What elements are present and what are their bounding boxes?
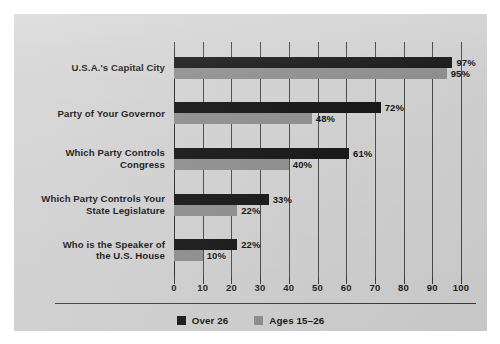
category-label-1: Party of Your Governor: [58, 108, 165, 120]
figure-panel: 0102030405060708090100U.S.A.'s Capital C…: [14, 14, 487, 331]
category-label-3: Which Party Controls YourState Legislatu…: [41, 193, 165, 216]
legend-label-over-26: Over 26: [192, 315, 229, 326]
tick-20: [231, 42, 232, 49]
category-label-2: Which Party ControlsCongress: [65, 147, 165, 170]
x-tick-label-50: 50: [312, 282, 323, 293]
gridline-90: [432, 49, 433, 277]
x-tick-label-70: 70: [369, 282, 380, 293]
bar-value-ages-15-26-0: 95%: [451, 68, 470, 79]
bar-ages-15-26-4[interactable]: [174, 250, 203, 261]
bar-over-26-3[interactable]: [174, 194, 269, 205]
tick-10: [203, 42, 204, 49]
gridline-40: [289, 49, 290, 277]
tick-50: [318, 42, 319, 49]
gridline-100: [461, 49, 462, 277]
category-label-line: the U.S. House: [63, 250, 165, 262]
x-tick-label-60: 60: [341, 282, 352, 293]
bar-ages-15-26-3[interactable]: [174, 205, 237, 216]
tick-100: [461, 42, 462, 49]
x-tick-label-80: 80: [398, 282, 409, 293]
bar-value-over-26-4: 22%: [241, 239, 260, 250]
bar-ages-15-26-0[interactable]: [174, 68, 447, 79]
gridline-60: [346, 49, 347, 277]
bar-over-26-4[interactable]: [174, 239, 237, 250]
chart-legend: Over 26 Ages 15–26: [14, 315, 487, 326]
bar-value-over-26-3: 33%: [273, 194, 292, 205]
tick-80: [404, 42, 405, 49]
x-tick-label-100: 100: [453, 282, 469, 293]
category-label-4: Who is the Speaker ofthe U.S. House: [63, 239, 165, 262]
bar-value-ages-15-26-1: 48%: [316, 113, 335, 124]
bar-value-ages-15-26-3: 22%: [241, 205, 260, 216]
bar-value-over-26-0: 97%: [456, 57, 475, 68]
bar-ages-15-26-1[interactable]: [174, 113, 312, 124]
legend-swatch-icon-over-26: [177, 316, 186, 325]
category-label-0: U.S.A.'s Capital City: [72, 62, 165, 74]
category-label-line: Congress: [65, 159, 165, 171]
bar-over-26-0[interactable]: [174, 57, 452, 68]
bar-over-26-1[interactable]: [174, 102, 381, 113]
gridline-70: [375, 49, 376, 277]
tick-90: [432, 42, 433, 49]
tick-40: [289, 42, 290, 49]
legend-item-over-26[interactable]: Over 26: [177, 315, 229, 326]
tick-60: [346, 42, 347, 49]
bar-ages-15-26-2[interactable]: [174, 159, 289, 170]
category-label-line: Which Party Controls: [65, 147, 165, 159]
bar-over-26-2[interactable]: [174, 148, 349, 159]
x-tick-label-90: 90: [427, 282, 438, 293]
tick-0: [174, 42, 175, 49]
bar-value-over-26-2: 61%: [353, 148, 372, 159]
x-tick-label-40: 40: [283, 282, 294, 293]
legend-label-ages-15-26: Ages 15–26: [269, 315, 324, 326]
category-label-line: Party of Your Governor: [58, 108, 165, 120]
bar-value-over-26-1: 72%: [385, 102, 404, 113]
x-tick-label-20: 20: [226, 282, 237, 293]
x-tick-label-10: 10: [197, 282, 208, 293]
category-label-line: Who is the Speaker of: [63, 239, 165, 251]
gridline-50: [318, 49, 319, 277]
legend-divider: [55, 303, 476, 304]
plot-area: 0102030405060708090100U.S.A.'s Capital C…: [174, 49, 461, 277]
x-tick-label-0: 0: [171, 282, 176, 293]
legend-swatch-icon-ages-15-26: [254, 316, 263, 325]
tick-70: [375, 42, 376, 49]
legend-item-ages-15-26[interactable]: Ages 15–26: [254, 315, 324, 326]
category-label-line: U.S.A.'s Capital City: [72, 62, 165, 74]
gridline-80: [404, 49, 405, 277]
category-label-line: Which Party Controls Your: [41, 193, 165, 205]
x-tick-label-30: 30: [255, 282, 266, 293]
tick-30: [260, 42, 261, 49]
chart-screenshot: 0102030405060708090100U.S.A.'s Capital C…: [0, 0, 500, 344]
bar-value-ages-15-26-2: 40%: [293, 159, 312, 170]
bar-value-ages-15-26-4: 10%: [207, 250, 226, 261]
category-label-line: State Legislature: [41, 205, 165, 217]
